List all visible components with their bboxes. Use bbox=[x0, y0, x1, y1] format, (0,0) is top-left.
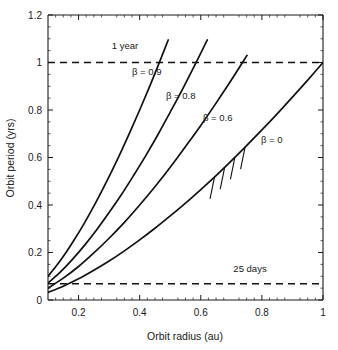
y-tick-label: 1 bbox=[36, 57, 42, 68]
y-tick-label: 0.8 bbox=[28, 105, 42, 116]
x-axis-title: Orbit radius (au) bbox=[147, 330, 223, 342]
beta-0-6-label: β = 0.6 bbox=[203, 112, 233, 123]
y-tick-label: 0 bbox=[36, 295, 42, 306]
y-tick-label: 0.2 bbox=[28, 247, 42, 258]
y-tick-label: 0.4 bbox=[28, 200, 42, 211]
x-tick-label: 0.2 bbox=[72, 307, 86, 318]
y-axis-title: Orbit period (yrs) bbox=[4, 119, 16, 198]
orbit-period-chart: 0.20.40.60.8100.20.40.60.811.2 1 year 25… bbox=[0, 0, 338, 350]
x-tick-label: 0.8 bbox=[255, 307, 269, 318]
beta-0-9-label: β = 0.9 bbox=[132, 66, 162, 77]
x-tick-label: 1 bbox=[320, 307, 326, 318]
twentyfive-days-label: 25 days bbox=[233, 263, 267, 274]
chart-background bbox=[0, 0, 338, 350]
beta-0-label: β = 0 bbox=[261, 134, 283, 145]
one-year-label: 1 year bbox=[112, 40, 138, 51]
x-tick-label: 0.6 bbox=[194, 307, 208, 318]
y-tick-label: 0.6 bbox=[28, 152, 42, 163]
y-tick-label: 1.2 bbox=[28, 10, 42, 21]
figure-canvas: 0.20.40.60.8100.20.40.60.811.2 1 year 25… bbox=[0, 0, 338, 350]
beta-0-8-label: β = 0.8 bbox=[166, 90, 196, 101]
x-tick-label: 0.4 bbox=[133, 307, 147, 318]
